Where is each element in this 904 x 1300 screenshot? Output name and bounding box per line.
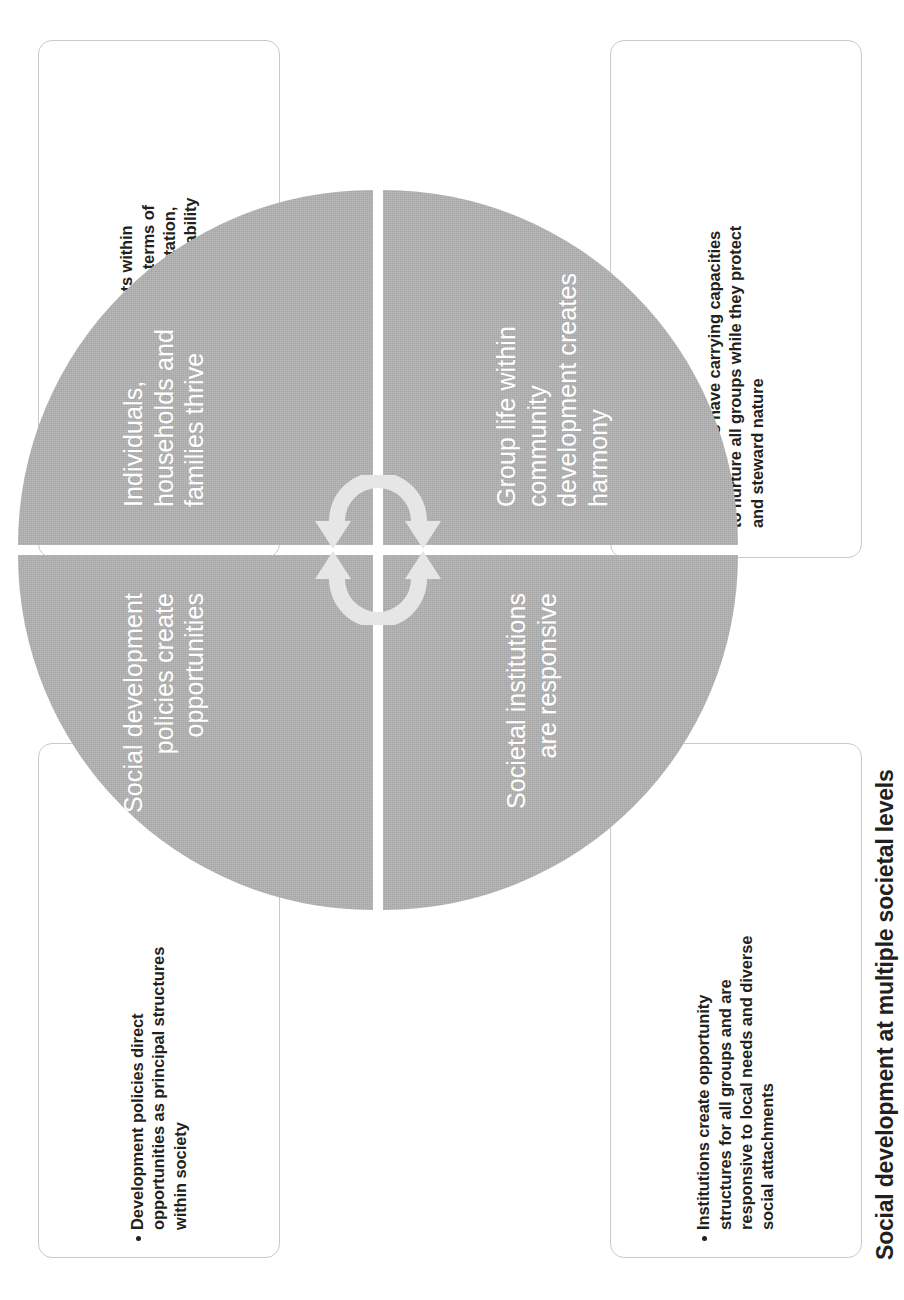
quadrant-top-left: Social development policies create oppor… <box>18 555 373 910</box>
figure-caption: Social development at multiple societal … <box>872 769 899 1260</box>
quadrant-label-bottom-left: Societal institutions are responsive <box>501 593 562 843</box>
quadrant-label-top-left: Social development policies create oppor… <box>118 593 210 843</box>
callout-text-bottom-left: Institutions create opportunity structur… <box>693 911 779 1230</box>
quadrant-circle: Social development policies create oppor… <box>18 190 738 910</box>
callout-content-top-left: Development policies direct opportunitie… <box>127 897 191 1251</box>
callout-content-bottom-left: Institutions create opportunity structur… <box>693 897 779 1251</box>
callout-text-top-left: Development policies direct opportunitie… <box>127 911 191 1230</box>
rotated-figure-container: Development policies direct opportunitie… <box>0 0 904 1300</box>
quadrant-top-right: Individuals, households and families thr… <box>18 190 373 545</box>
quadrant-label-bottom-right: Group life within community development … <box>491 257 613 507</box>
quadrant-label-top-right: Individuals, households and families thr… <box>118 257 210 507</box>
bullet-point-icon <box>136 1236 141 1241</box>
bullet-point-icon <box>702 1236 707 1241</box>
quadrant-bottom-left: Societal institutions are responsive <box>383 555 738 910</box>
social-development-diagram: Development policies direct opportunitie… <box>0 0 904 1300</box>
quadrant-bottom-right: Group life within community development … <box>383 190 738 545</box>
